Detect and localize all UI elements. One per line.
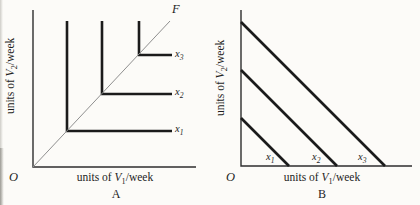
panel-a-isoquant-label-x2: x2 — [175, 86, 183, 101]
panel-a-isoquant-label-x1: x1 — [175, 123, 183, 138]
panel-b-x-label-prefix: units of — [284, 171, 322, 183]
panel-a-x-axis-label: units of V1/week — [45, 171, 185, 187]
panel-a-y-label-variable: V — [4, 69, 16, 76]
panel-b-series-x1 — [241, 118, 289, 166]
panel-a-ray-label: F — [172, 2, 180, 16]
isoquant-x3-subscript: 3 — [363, 156, 367, 165]
panel-b-series-x3 — [241, 22, 385, 166]
isoquant-x2-subscript: 2 — [317, 156, 321, 165]
panel-a-series-x2 — [102, 21, 172, 94]
isoquant-x1-subscript: 1 — [180, 128, 184, 137]
panel-b-isoquant-label-x3: x3 — [358, 151, 366, 166]
panel-a-y-label-suffix: /week — [4, 38, 16, 65]
isoquant-x1-subscript: 1 — [271, 156, 275, 165]
isoquant-x3-subscript: 3 — [180, 53, 184, 62]
panel-b-y-label-prefix: units of — [214, 78, 226, 116]
panel-b-x-axis-label: units of V1/week — [252, 171, 392, 187]
panel-a-x-label-suffix: /week — [126, 171, 153, 183]
isoquant-figure: units of V2/week units of V1/week A O F … — [0, 0, 420, 205]
panel-b-origin-label: O — [226, 170, 235, 184]
panel-a-x-label-variable: V — [115, 171, 122, 183]
isoquant-x2-subscript: 2 — [180, 91, 184, 100]
panel-b-y-label-subscript: 2 — [220, 67, 229, 71]
panel-a-isoquant-label-x3: x3 — [175, 48, 183, 63]
panel-a-y-axis-label: units of V2/week — [4, 31, 20, 121]
panel-a-series-x3 — [139, 21, 172, 55]
panel-b-label: B — [307, 188, 337, 202]
panel-b-lines — [241, 10, 412, 166]
panel-b-y-label-variable: V — [214, 71, 226, 78]
page-corner-smudge — [0, 148, 4, 205]
panel-a-origin-label: O — [9, 170, 18, 184]
panel-b-series-x2 — [241, 70, 337, 166]
panel-b-isoquant-label-x2: x2 — [312, 151, 320, 166]
panel-b-y-label-suffix: /week — [214, 40, 226, 67]
panel-b-y-axis-label: units of V2/week — [214, 33, 230, 123]
panel-a-y-label-prefix: units of — [4, 76, 16, 114]
panel-b-x-label-variable: V — [322, 171, 329, 183]
panel-a-axes — [33, 10, 196, 167]
panel-a-y-label-subscript: 2 — [10, 65, 19, 69]
panel-a-x-label-prefix: units of — [77, 171, 115, 183]
panel-b-isoquant-label-x1: x1 — [266, 151, 274, 166]
panel-b-x-label-suffix: /week — [333, 171, 360, 183]
panel-a-lines — [33, 10, 196, 167]
panel-a-label: A — [101, 188, 131, 202]
